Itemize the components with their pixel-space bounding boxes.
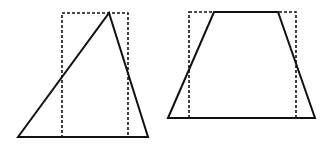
geometry-diagram [0,0,332,147]
trapezoid-dashed-rectangle [189,12,296,118]
trapezoid-figure [168,12,315,118]
triangle-figure [18,13,148,137]
trapezoid [168,12,315,118]
